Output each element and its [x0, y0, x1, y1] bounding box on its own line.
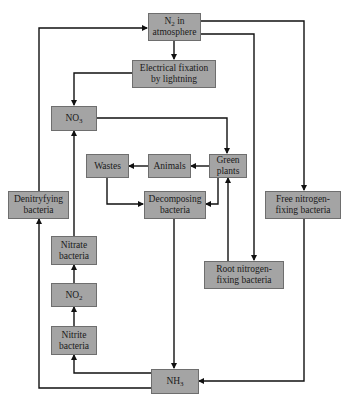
free-fixing-label: Free nitrogen- fixing bacteria — [275, 194, 330, 216]
n2-label-rest: in atmosphere — [153, 16, 197, 37]
node-no2: NO2 — [51, 283, 97, 307]
root-fixing-label: Root nitrogen- fixing bacteria — [216, 264, 272, 286]
nh3-subscript: 3 — [180, 380, 184, 388]
edge-lightning-no3 — [74, 73, 132, 105]
edge-free-nh3 — [199, 218, 304, 381]
no3-label: NO — [65, 113, 79, 123]
animals-label: Animals — [153, 161, 185, 172]
no2-subscript: 2 — [79, 294, 83, 302]
node-green-plants: Green plants — [209, 154, 247, 178]
electrical-fixation-label: Electrical fixation by lightning — [140, 63, 208, 85]
node-decomposing-bacteria: Decomposing bacteria — [144, 191, 206, 219]
nitrite-bacteria-label: Nitrite bacteria — [59, 330, 89, 352]
node-animals: Animals — [148, 154, 191, 178]
node-denitrifying-bacteria: Denitryfying bacteria — [8, 191, 69, 219]
nitrate-bacteria-label: Nitrate bacteria — [59, 240, 89, 262]
denitrifying-bacteria-label: Denitryfying bacteria — [14, 194, 63, 216]
decomposing-bacteria-label: Decomposing bacteria — [149, 194, 202, 216]
nitrogen-cycle-diagram: N2 in atmosphere Electrical fixation by … — [0, 0, 344, 402]
node-nitrite-bacteria: Nitrite bacteria — [51, 326, 97, 355]
node-n2-atmosphere: N2 in atmosphere — [148, 13, 201, 41]
node-nitrate-bacteria: Nitrate bacteria — [51, 236, 97, 265]
wastes-label: Wastes — [94, 161, 121, 172]
nh3-label: NH — [166, 376, 180, 386]
edge-wastes-decomposing — [107, 177, 143, 204]
node-electrical-fixation: Electrical fixation by lightning — [132, 60, 216, 88]
node-wastes: Wastes — [86, 154, 129, 178]
node-no3: NO3 — [51, 106, 97, 131]
node-nh3: NH3 — [151, 369, 199, 394]
edge-nh3-nitrite — [74, 355, 151, 373]
no3-subscript: 3 — [79, 117, 83, 125]
green-plants-label: Green plants — [216, 155, 239, 177]
node-free-nitrogen-fixing-bacteria: Free nitrogen- fixing bacteria — [265, 191, 341, 219]
node-root-nitrogen-fixing-bacteria: Root nitrogen- fixing bacteria — [204, 261, 284, 289]
no2-label: NO — [65, 290, 79, 300]
edge-no3-plants — [97, 118, 227, 153]
edge-plants-decomposing — [206, 177, 218, 204]
